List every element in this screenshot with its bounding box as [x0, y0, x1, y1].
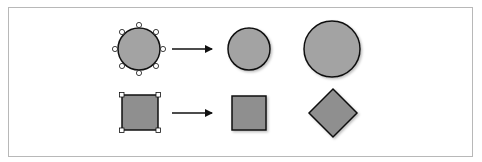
- selected-square[interactable]: [120, 93, 161, 133]
- diamond-shape[interactable]: [309, 89, 357, 137]
- selected-circle[interactable]: [112, 22, 165, 75]
- enlarged-circle-shape[interactable]: [304, 21, 360, 77]
- circle-shape[interactable]: [228, 28, 270, 70]
- square-shape[interactable]: [232, 96, 266, 130]
- diagram-canvas: [0, 0, 482, 162]
